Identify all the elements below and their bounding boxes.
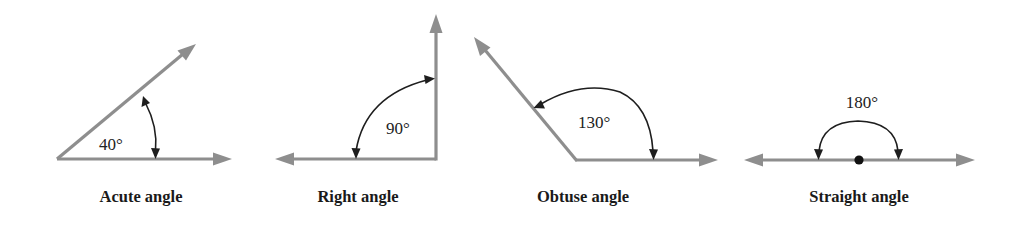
acute-caption: Acute angle [100, 187, 183, 206]
straight-caption: Straight angle [809, 187, 908, 206]
obtuse-measure-label: 130° [578, 113, 610, 132]
arc-arrowhead-icon [814, 149, 823, 160]
obtuse-inclined-ray [485, 50, 577, 161]
vertex-point [854, 155, 863, 164]
arc-arrowhead-icon [142, 96, 151, 107]
arrowhead-icon [275, 153, 294, 166]
obtuse-caption: Obtuse angle [537, 187, 629, 206]
straight-angle-diagram: 180° Straight angle [744, 93, 975, 206]
acute-measure-label: 40° [99, 135, 123, 154]
right-angle-diagram: 90° Right angle [275, 14, 443, 206]
right-measure-arc [356, 80, 427, 151]
straight-measure-label: 180° [846, 93, 878, 112]
right-measure-label: 90° [386, 119, 410, 138]
arrowhead-icon [744, 154, 763, 167]
arc-arrowhead-icon [649, 149, 658, 160]
acute-measure-arc [146, 103, 156, 151]
arc-arrowhead-icon [352, 148, 361, 159]
acute-angle-diagram: 40° Acute angle [57, 44, 232, 206]
arrowhead-icon [430, 14, 443, 33]
arc-arrowhead-icon [894, 149, 903, 160]
angle-types-figure: 40° Acute angle 90° Right angle 130° Obt… [0, 0, 1020, 227]
arrowhead-icon [213, 153, 232, 166]
arc-arrowhead-icon [424, 75, 435, 84]
obtuse-angle-diagram: 130° Obtuse angle [474, 37, 718, 206]
arc-arrowhead-icon [534, 100, 546, 109]
straight-measure-arc [819, 121, 898, 151]
arc-arrowhead-icon [151, 148, 160, 159]
right-caption: Right angle [317, 187, 398, 206]
arrowhead-icon [699, 154, 718, 167]
arrowhead-icon [956, 154, 975, 167]
